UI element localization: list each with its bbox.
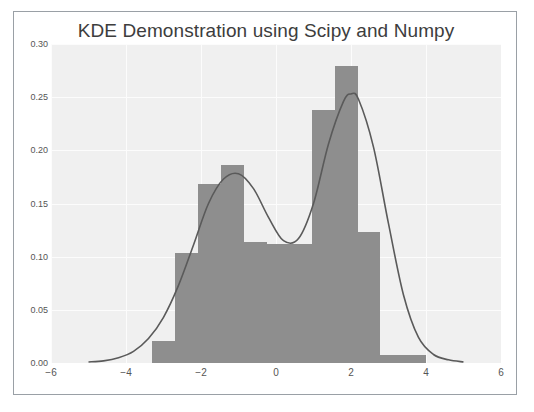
x-tick-label: 6	[498, 367, 504, 378]
kde-curve	[51, 44, 501, 363]
plot-area	[51, 44, 501, 363]
chart-title: KDE Demonstration using Scipy and Numpy	[14, 20, 518, 42]
y-tick-label: 0.00	[16, 358, 48, 368]
y-tick-label: 0.15	[16, 199, 48, 209]
x-tick-label: 4	[423, 367, 429, 378]
y-tick-label: 0.30	[16, 39, 48, 49]
y-axis-ticks: 0.000.050.100.150.200.250.30	[14, 44, 48, 363]
x-tick-label: 0	[273, 367, 279, 378]
figure-panel: KDE Demonstration using Scipy and Numpy …	[13, 11, 517, 395]
y-tick-label: 0.25	[16, 92, 48, 102]
y-tick-label: 0.20	[16, 145, 48, 155]
y-tick-label: 0.10	[16, 252, 48, 262]
y-tick-label: 0.05	[16, 305, 48, 315]
x-axis-ticks: −6−4−20246	[51, 365, 501, 385]
x-tick-label: −2	[195, 367, 206, 378]
x-tick-label: −4	[120, 367, 131, 378]
x-tick-label: 2	[348, 367, 354, 378]
x-tick-label: −6	[45, 367, 56, 378]
